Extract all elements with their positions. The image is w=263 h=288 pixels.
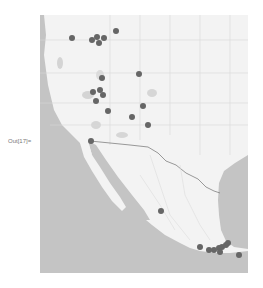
- map-canvas: [40, 15, 248, 273]
- output-label: Out[17]=: [8, 138, 31, 144]
- gulf-of-mexico: [218, 155, 248, 249]
- pacific-ocean: [40, 15, 248, 273]
- geo-map[interactable]: [40, 15, 248, 273]
- cutoff-previous-line: [0, 0, 263, 6]
